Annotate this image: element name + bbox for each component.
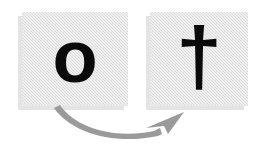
source-card[interactable]: o (18, 12, 124, 106)
dagger-cross-glyph: † (176, 15, 222, 97)
diagram-canvas: o † (0, 0, 256, 159)
target-card[interactable]: † (146, 12, 244, 106)
target-card-face: † (150, 12, 248, 106)
curved-arrow-icon (50, 100, 210, 152)
source-card-face: o (22, 12, 128, 106)
arrow-head (146, 112, 184, 134)
arrow-shaft (54, 105, 162, 139)
letter-o-glyph: o (52, 20, 97, 94)
